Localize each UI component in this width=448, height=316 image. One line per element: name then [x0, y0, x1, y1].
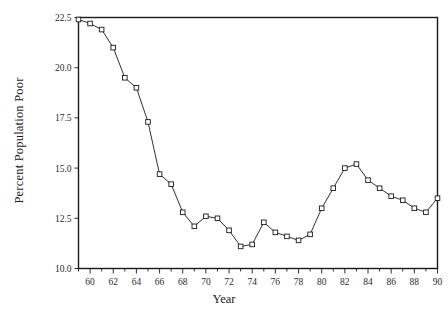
- plot-frame: [79, 18, 438, 269]
- data-point-marker: [261, 220, 266, 225]
- data-point-marker: [88, 21, 93, 26]
- data-point-marker: [319, 206, 324, 211]
- data-point-marker: [204, 214, 209, 219]
- data-point-marker: [192, 224, 197, 229]
- x-tick-label: 66: [155, 277, 165, 287]
- y-axis-label: Percent Population Poor: [6, 0, 32, 280]
- data-point-marker: [331, 186, 336, 191]
- data-point-marker: [134, 85, 139, 90]
- x-tick-label: 70: [201, 277, 211, 287]
- y-tick-label: 10.0: [55, 264, 72, 274]
- data-point-marker: [215, 216, 220, 221]
- data-point-marker: [296, 238, 301, 243]
- data-point-marker: [238, 244, 243, 249]
- data-point-marker: [308, 232, 313, 237]
- x-tick-label: 60: [85, 277, 95, 287]
- x-tick-label: 74: [247, 277, 257, 287]
- x-tick-label: 64: [132, 277, 142, 287]
- data-point-marker: [146, 120, 151, 125]
- x-tick-label: 68: [178, 277, 188, 287]
- y-axis-label-text: Percent Population Poor: [12, 77, 27, 203]
- data-point-marker: [354, 162, 359, 167]
- data-point-marker: [343, 166, 348, 171]
- x-tick-label: 62: [108, 277, 118, 287]
- x-axis-ticks: 60626466687072747678808284868890: [79, 269, 443, 287]
- y-tick-label: 20.0: [55, 63, 72, 73]
- data-point-marker: [412, 206, 417, 211]
- x-tick-label: 78: [294, 277, 304, 287]
- data-point-marker: [169, 182, 174, 187]
- data-point-marker: [227, 228, 232, 233]
- y-tick-label: 12.5: [55, 214, 72, 224]
- data-point-marker: [250, 242, 255, 247]
- data-point-marker: [377, 186, 382, 191]
- x-tick-label: 86: [386, 277, 396, 287]
- x-tick-label: 90: [433, 277, 443, 287]
- data-point-marker: [366, 178, 371, 183]
- data-point-marker: [435, 196, 440, 201]
- y-tick-label: 22.5: [55, 13, 72, 23]
- y-tick-label: 17.5: [55, 113, 72, 123]
- data-point-marker: [285, 234, 290, 239]
- data-point-marker: [123, 75, 128, 80]
- data-point-marker: [424, 210, 429, 215]
- data-point-marker: [76, 17, 81, 22]
- x-tick-label: 84: [363, 277, 373, 287]
- data-point-marker: [157, 172, 162, 177]
- x-axis-label: Year: [0, 292, 448, 307]
- poverty-rate-line-chart: Percent Population Poor 10.012.515.017.5…: [0, 0, 448, 316]
- data-point-marker: [400, 198, 405, 203]
- data-point-marker: [273, 230, 278, 235]
- series-line-poverty: [79, 20, 438, 247]
- x-tick-label: 76: [271, 277, 281, 287]
- data-point-marker: [99, 27, 104, 32]
- x-tick-label: 88: [410, 277, 420, 287]
- y-tick-label: 15.0: [55, 164, 72, 174]
- series-markers: [76, 17, 440, 249]
- x-tick-label: 82: [340, 277, 350, 287]
- y-axis-ticks: 10.012.515.017.520.022.5: [55, 13, 79, 274]
- data-point-marker: [389, 194, 394, 199]
- x-tick-label: 80: [317, 277, 327, 287]
- plot-canvas: 10.012.515.017.520.022.5 606264666870727…: [0, 0, 448, 316]
- x-tick-label: 72: [224, 277, 234, 287]
- data-point-marker: [180, 210, 185, 215]
- data-point-marker: [111, 45, 116, 50]
